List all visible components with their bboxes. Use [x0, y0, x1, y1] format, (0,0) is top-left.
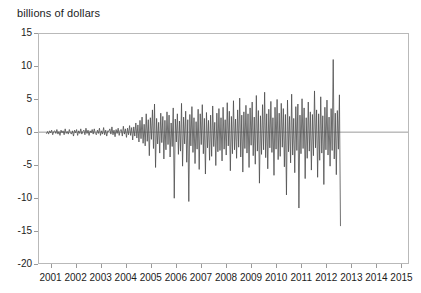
y-axis-tick-label: 0 — [2, 127, 32, 137]
y-axis-tick-mark — [34, 264, 38, 265]
x-axis-tick-mark — [351, 264, 352, 268]
x-axis-tick-mark — [101, 264, 102, 268]
x-axis-tick-mark — [376, 264, 377, 268]
x-axis-tick-mark — [201, 264, 202, 268]
chart-figure: billions of dollars 151050-5-10-15-20 20… — [0, 0, 421, 293]
y-axis-tick-label: 5 — [2, 94, 32, 104]
y-axis-tick-mark — [34, 33, 38, 34]
x-axis-tick-mark — [276, 264, 277, 268]
y-axis-tick-label: 10 — [2, 61, 32, 71]
y-axis-tick-mark — [34, 66, 38, 67]
x-axis-tick-mark — [176, 264, 177, 268]
x-axis-tick-mark — [151, 264, 152, 268]
y-axis-tick-label: -15 — [2, 226, 32, 236]
y-axis-tick-mark — [34, 99, 38, 100]
y-axis-tick-mark — [34, 132, 38, 133]
x-axis-tick-mark — [51, 264, 52, 268]
y-axis-tick-label: -10 — [2, 193, 32, 203]
x-axis-tick-label: 2015 — [384, 272, 418, 283]
x-axis-tick-mark — [76, 264, 77, 268]
x-axis-tick-mark — [301, 264, 302, 268]
x-axis-tick-mark — [326, 264, 327, 268]
x-axis-tick-mark — [251, 264, 252, 268]
y-axis-tick-mark — [34, 198, 38, 199]
y-axis-tick-mark — [34, 231, 38, 232]
y-axis-tick-label: 15 — [2, 28, 32, 38]
plot-area — [38, 33, 409, 264]
x-axis-tick-mark — [226, 264, 227, 268]
data-series-line — [46, 60, 340, 226]
y-axis-tick-labels: 151050-5-10-15-20 — [0, 0, 32, 293]
x-axis-tick-mark — [401, 264, 402, 268]
y-axis-tick-label: -5 — [2, 160, 32, 170]
data-line-svg — [39, 34, 408, 263]
y-axis-tick-label: -20 — [2, 259, 32, 269]
x-axis-tick-mark — [126, 264, 127, 268]
y-axis-tick-mark — [34, 165, 38, 166]
